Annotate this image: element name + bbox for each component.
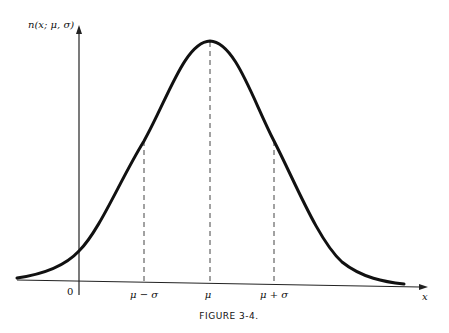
x-axis	[17, 280, 420, 287]
normal-distribution-figure: n(x; μ, σ) x 0 μ − σ μ μ + σ FIGURE 3-4.	[0, 0, 449, 333]
y-axis-label: n(x; μ, σ)	[28, 19, 74, 30]
figure-caption: FIGURE 3-4.	[199, 311, 258, 321]
origin-label: 0	[67, 286, 73, 297]
y-axis-arrow-icon	[76, 25, 82, 34]
tick-label-mu-minus-sigma: μ − σ	[130, 289, 159, 300]
x-axis-arrow-icon	[419, 284, 428, 290]
x-axis-label: x	[422, 291, 428, 302]
tick-label-mu-plus-sigma: μ + σ	[260, 289, 289, 300]
tick-label-mu: μ	[205, 289, 212, 300]
